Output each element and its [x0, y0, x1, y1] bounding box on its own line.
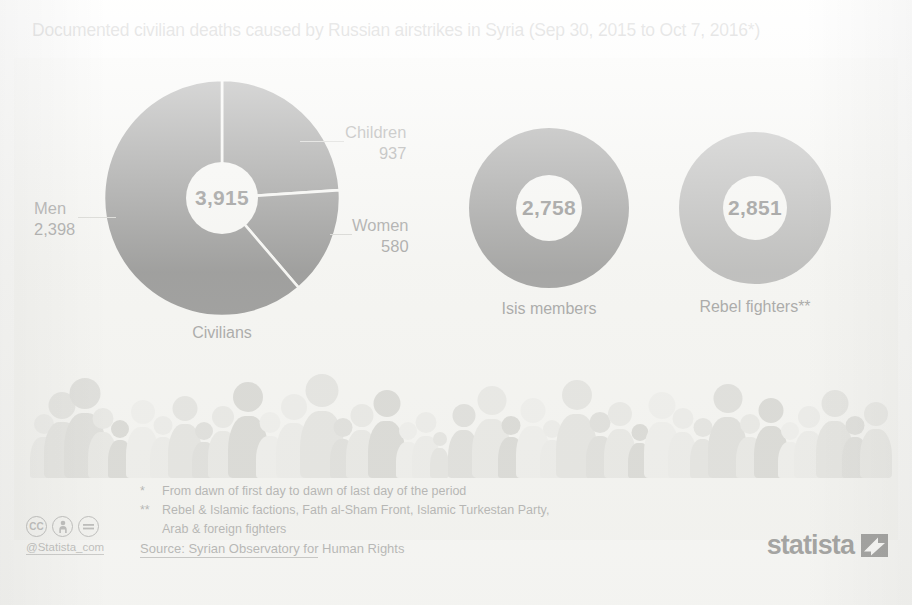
- donut-civilians-caption: Civilians: [104, 324, 340, 342]
- donut-rebels: 2,851 Rebel fighters**: [679, 132, 831, 284]
- callout-children-value: 937: [345, 143, 406, 164]
- statista-handle[interactable]: @Statista_com: [26, 541, 104, 555]
- footnote-mark: *: [140, 482, 162, 501]
- donut-rebels-total: 2,851: [728, 196, 782, 220]
- donut-civilians-hole: 3,915: [186, 162, 258, 234]
- donut-civilians-ring: 3,915: [104, 80, 340, 316]
- statista-arrow-mark: [861, 534, 888, 557]
- equals-glyph: [82, 522, 95, 531]
- statista-logo: statista: [767, 530, 888, 561]
- donut-rebels-hole: 2,851: [723, 176, 787, 240]
- footnote-row: ** Rebel & Islamic factions, Fath al-Sha…: [140, 501, 549, 520]
- callout-children: Children 937: [345, 122, 406, 164]
- person-icon: [860, 402, 892, 478]
- donut-isis-hole: 2,758: [516, 175, 582, 241]
- footnote-text: From dawn of first day to dawn of last d…: [162, 482, 466, 501]
- callout-women-value: 580: [352, 236, 409, 257]
- person-icon: [430, 432, 449, 478]
- donut-isis-ring: 2,758: [469, 128, 629, 288]
- footnote-row: Arab & foreign fighters: [140, 520, 549, 539]
- source-underlined-text: Source: Syrian Observatory for: [140, 541, 318, 558]
- footnote-row: * From dawn of first day to dawn of last…: [140, 482, 549, 501]
- statista-infographic: Documented civilian deaths caused by Rus…: [0, 0, 912, 605]
- leader-line-women: [330, 234, 352, 235]
- leader-line-men: [78, 217, 116, 218]
- footnote-mark: [140, 520, 162, 539]
- cc-icon: CC: [26, 516, 47, 537]
- donut-isis-total: 2,758: [522, 196, 576, 220]
- person-glyph: [57, 520, 69, 534]
- donut-civilians: 3,915 Civilians: [104, 80, 340, 316]
- footnotes: * From dawn of first day to dawn of last…: [140, 482, 549, 538]
- footnote-text: Rebel & Islamic factions, Fath al-Sham F…: [162, 501, 549, 520]
- donut-rebels-ring: 2,851: [679, 132, 831, 284]
- crowd-silhouettes: [30, 366, 882, 478]
- cc-icon-row: CC: [26, 516, 104, 537]
- donut-isis-caption: Isis members: [469, 300, 629, 318]
- callout-women-label: Women: [352, 216, 409, 234]
- source-rest-text: Human Rights: [318, 541, 404, 556]
- callout-men-label: Men: [34, 199, 66, 217]
- cc-by-person-icon: [52, 516, 73, 537]
- donut-civilians-total: 3,915: [195, 186, 249, 210]
- callout-children-label: Children: [345, 123, 406, 141]
- source-line: Source: Syrian Observatory for Human Rig…: [140, 541, 404, 556]
- statista-wordmark: statista: [767, 530, 854, 561]
- callout-men-value: 2,398: [34, 219, 75, 240]
- callout-women: Women 580: [352, 215, 409, 257]
- footnote-text: Arab & foreign fighters: [162, 520, 286, 539]
- creative-commons-license[interactable]: CC @Statista_com: [26, 516, 104, 555]
- page-title: Documented civilian deaths caused by Rus…: [32, 20, 760, 41]
- callout-men: Men 2,398: [34, 198, 75, 240]
- leader-line-children: [300, 141, 344, 142]
- donut-isis: 2,758 Isis members: [469, 128, 629, 288]
- footnote-mark: **: [140, 501, 162, 520]
- cc-nd-equals-icon: [78, 516, 99, 537]
- donut-rebels-caption: Rebel fighters**: [679, 298, 831, 316]
